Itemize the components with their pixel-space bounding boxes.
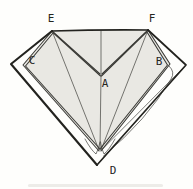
vertex-label-e: E — [48, 13, 55, 24]
vertex-label-c: C — [29, 55, 36, 66]
scan-artifact — [28, 184, 163, 187]
diagram-canvas — [0, 0, 193, 189]
vertex-label-d: D — [110, 165, 117, 176]
vertex-label-a: A — [102, 78, 109, 89]
vertex-label-b: B — [156, 56, 163, 67]
vertex-label-f: F — [149, 13, 156, 24]
origami-diagram: E F C B A D — [0, 0, 193, 189]
